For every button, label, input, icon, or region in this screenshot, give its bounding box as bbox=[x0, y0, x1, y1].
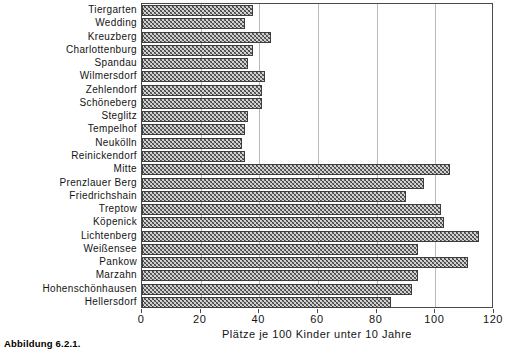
category-label: Weißensee bbox=[0, 243, 137, 254]
category-axis-labels: TiergartenWeddingKreuzbergCharlottenburg… bbox=[0, 3, 137, 308]
bar-series bbox=[142, 4, 492, 307]
category-label: Friedrichshain bbox=[0, 190, 137, 201]
x-axis-tick-label: 60 bbox=[310, 313, 323, 326]
x-axis-title: Plätze je 100 Kinder unter 10 Jahre bbox=[141, 328, 493, 341]
category-label: Spandau bbox=[0, 57, 137, 68]
bar bbox=[142, 257, 468, 268]
bar bbox=[142, 18, 245, 29]
x-axis-tick-label: 80 bbox=[369, 313, 382, 326]
bar bbox=[142, 124, 245, 135]
category-label: Charlottenburg bbox=[0, 44, 137, 55]
category-label: Reinickendorf bbox=[0, 150, 137, 161]
category-label: Neukölln bbox=[0, 137, 137, 148]
bar bbox=[142, 284, 412, 295]
category-label: Treptow bbox=[0, 203, 137, 214]
bar bbox=[142, 138, 242, 149]
bar bbox=[142, 164, 450, 175]
bar bbox=[142, 151, 245, 162]
category-label: Zehlendorf bbox=[0, 84, 137, 95]
category-label: Wedding bbox=[0, 17, 137, 28]
category-label: Tempelhof bbox=[0, 123, 137, 134]
bar bbox=[142, 45, 253, 56]
x-axis-tick-label: 120 bbox=[483, 313, 503, 326]
bar bbox=[142, 71, 265, 82]
x-axis-tick-labels: 020406080100120 bbox=[0, 313, 505, 327]
bar bbox=[142, 85, 262, 96]
plot-area bbox=[141, 3, 493, 308]
bar bbox=[142, 178, 424, 189]
category-label: Schöneberg bbox=[0, 97, 137, 108]
category-label: Wilmersdorf bbox=[0, 70, 137, 81]
category-label: Marzahn bbox=[0, 269, 137, 280]
bar bbox=[142, 58, 248, 69]
bar bbox=[142, 270, 418, 281]
bar bbox=[142, 297, 391, 308]
category-label: Lichtenberg bbox=[0, 230, 137, 241]
x-axis-tick-label: 0 bbox=[138, 313, 145, 326]
bar bbox=[142, 32, 271, 43]
bar bbox=[142, 204, 441, 215]
figure-container: TiergartenWeddingKreuzbergCharlottenburg… bbox=[0, 0, 505, 352]
x-axis-tick-label: 40 bbox=[252, 313, 265, 326]
category-label: Hohenschönhausen bbox=[0, 283, 137, 294]
category-label: Hellersdorf bbox=[0, 296, 137, 307]
x-axis-tick-label: 100 bbox=[424, 313, 444, 326]
x-axis-tick-label: 20 bbox=[193, 313, 206, 326]
category-label: Mitte bbox=[0, 163, 137, 174]
category-label: Tiergarten bbox=[0, 4, 137, 15]
bar bbox=[142, 231, 479, 242]
category-label: Steglitz bbox=[0, 110, 137, 121]
bar bbox=[142, 111, 248, 122]
bar bbox=[142, 191, 406, 202]
category-label: Prenzlauer Berg bbox=[0, 177, 137, 188]
category-label: Pankow bbox=[0, 256, 137, 267]
bar bbox=[142, 217, 444, 228]
category-label: Kreuzberg bbox=[0, 31, 137, 42]
figure-caption: Abbildung 6.2.1. bbox=[4, 338, 81, 350]
bar bbox=[142, 244, 418, 255]
category-label: Köpenick bbox=[0, 216, 137, 227]
bar bbox=[142, 98, 262, 109]
bar bbox=[142, 5, 253, 16]
